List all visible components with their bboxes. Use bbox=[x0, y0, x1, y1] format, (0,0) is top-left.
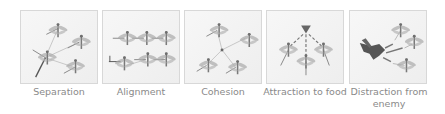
label-cohesion: Cohesion bbox=[180, 86, 266, 98]
label-separation: Separation bbox=[16, 86, 102, 98]
enemy-bird-icon bbox=[360, 43, 385, 60]
label-distraction-from-enemy: Distraction from enemy bbox=[345, 86, 433, 110]
panel-cohesion bbox=[184, 10, 262, 84]
panel-alignment bbox=[102, 10, 180, 84]
panel-distraction-from-enemy bbox=[349, 10, 427, 84]
separation-diagram bbox=[21, 11, 97, 83]
alignment-diagram bbox=[103, 11, 179, 83]
distraction-diagram bbox=[350, 11, 426, 83]
dragonfly-icon bbox=[48, 23, 68, 37]
label-attraction-to-food: Attraction to food bbox=[262, 86, 348, 98]
attraction-diagram bbox=[267, 11, 343, 83]
dragonfly-icon bbox=[37, 50, 57, 64]
panel-separation bbox=[20, 10, 98, 84]
food-icon bbox=[301, 26, 311, 34]
cohesion-diagram bbox=[185, 11, 261, 83]
dragonfly-icon bbox=[71, 35, 91, 49]
panel-attraction-to-food bbox=[266, 10, 344, 84]
label-alignment: Alignment bbox=[98, 86, 184, 98]
